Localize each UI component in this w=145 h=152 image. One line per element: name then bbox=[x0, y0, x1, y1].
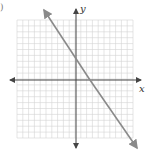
coordinate-plane: ) bbox=[0, 0, 145, 152]
graph-svg bbox=[0, 0, 145, 152]
grid bbox=[17, 20, 133, 138]
x-axis-label: x bbox=[139, 83, 145, 94]
y-axis-label: y bbox=[80, 3, 86, 14]
